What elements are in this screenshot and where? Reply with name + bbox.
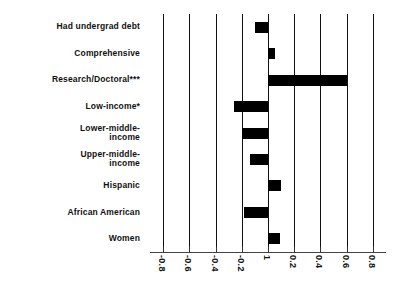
category-label: African American <box>0 208 140 218</box>
x-tick <box>163 247 164 253</box>
bar <box>250 154 268 165</box>
category-label: Low-income* <box>0 102 140 112</box>
category-label: Hispanic <box>0 181 140 191</box>
x-tick <box>373 247 374 253</box>
x-tick-label: 1 <box>262 255 272 260</box>
x-tick-label: 0.2 <box>288 255 298 268</box>
x-tick-label: -0.6 <box>183 255 193 272</box>
x-tick <box>347 247 348 253</box>
x-tick-label: 0.8 <box>367 255 377 268</box>
x-axis-ticks <box>150 247 386 253</box>
bar <box>268 48 275 59</box>
bars-layer <box>150 14 386 252</box>
bar <box>268 233 280 244</box>
x-tick-label: -0.8 <box>157 255 167 272</box>
x-tick <box>294 247 295 253</box>
bar <box>234 101 268 112</box>
x-tick-label: -0.4 <box>210 255 220 272</box>
x-tick <box>189 247 190 253</box>
category-label: Upper-middle- income <box>0 150 140 169</box>
x-tick <box>216 247 217 253</box>
category-label: Comprehensive <box>0 49 140 59</box>
category-label: Had undergrad debt <box>0 22 140 32</box>
bar <box>242 128 268 139</box>
category-axis: Had undergrad debtComprehensiveResearch/… <box>0 14 148 252</box>
category-label: Research/Doctoral*** <box>0 75 140 85</box>
plot-area <box>150 14 386 252</box>
bar-chart: Had undergrad debtComprehensiveResearch/… <box>0 0 409 300</box>
x-axis-tick-labels: -0.8-0.6-0.4-0.210.20.40.60.8 <box>150 255 386 299</box>
bar <box>268 75 347 86</box>
x-tick-label: 0.6 <box>341 255 351 268</box>
bar <box>255 22 268 33</box>
bar <box>268 180 281 191</box>
category-label: Women <box>0 234 140 244</box>
bar <box>244 207 268 218</box>
x-tick <box>320 247 321 253</box>
x-tick-label: -0.2 <box>236 255 246 272</box>
x-tick <box>268 247 269 253</box>
x-tick <box>242 247 243 253</box>
category-label: Lower-middle- income <box>0 124 140 143</box>
x-tick-label: 0.4 <box>314 255 324 268</box>
